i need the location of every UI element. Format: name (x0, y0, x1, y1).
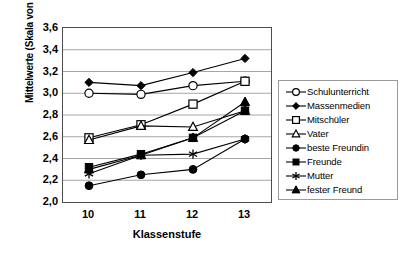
legend-label: Schulunterricht (307, 85, 369, 99)
legend-label: Mutter (307, 169, 333, 183)
plot-svg (63, 28, 271, 202)
legend-item-4[interactable]: beste Freundin (285, 141, 397, 155)
filled-circle-icon (285, 141, 307, 155)
y-tick-label: 2,8 (28, 109, 58, 119)
y-tick-label: 3,4 (28, 44, 58, 54)
line-chart: Mittelwerte (Skala von 1 bis 5) 3,63,43,… (0, 0, 414, 255)
x-axis-title: Klassenstufe (62, 228, 272, 240)
open-circle-icon (285, 85, 307, 99)
x-tick-label: 13 (224, 208, 264, 220)
legend-item-1[interactable]: Massenmedien (285, 99, 397, 113)
legend-item-6[interactable]: Mutter (285, 169, 397, 183)
series-open-square (85, 77, 249, 142)
series-filled-diamond (85, 54, 249, 89)
y-tick-label: 2,4 (28, 153, 58, 163)
x-tick-label: 12 (172, 208, 212, 220)
legend-label: Mitschüler (307, 113, 349, 127)
legend-item-5[interactable]: Freunde (285, 155, 397, 169)
open-square-icon (285, 113, 307, 127)
legend: SchulunterrichtMassenmedienMitschülerVat… (278, 80, 398, 200)
y-tick-label: 2,0 (28, 196, 58, 206)
legend-item-7[interactable]: fester Freund (285, 183, 397, 197)
series-open-circle (85, 77, 249, 98)
filled-diamond-icon (285, 99, 307, 113)
x-tick-label: 11 (120, 208, 160, 220)
legend-item-2[interactable]: Mitschüler (285, 113, 397, 127)
legend-item-3[interactable]: Vater (285, 127, 397, 141)
legend-label: fester Freund (307, 183, 362, 197)
legend-label: beste Freundin (307, 141, 369, 155)
filled-triangle-icon (285, 183, 307, 197)
plot-area (62, 27, 272, 203)
x-tick-label: 10 (68, 208, 108, 220)
y-tick-label: 3,6 (28, 22, 58, 32)
y-tick-label: 3,0 (28, 87, 58, 97)
legend-label: Freunde (307, 155, 342, 169)
asterisk-icon (285, 169, 307, 183)
y-axis-tick-labels: 3,63,43,23,02,82,62,42,22,0 (28, 0, 58, 255)
y-tick-label: 2,6 (28, 131, 58, 141)
y-tick-label: 3,2 (28, 66, 58, 76)
series-open-triangle (85, 106, 250, 144)
legend-label: Massenmedien (307, 99, 370, 113)
y-tick-label: 2,2 (28, 174, 58, 184)
open-triangle-icon (285, 127, 307, 141)
legend-item-0[interactable]: Schulunterricht (285, 85, 397, 99)
filled-square-icon (285, 155, 307, 169)
legend-label: Vater (307, 127, 329, 141)
